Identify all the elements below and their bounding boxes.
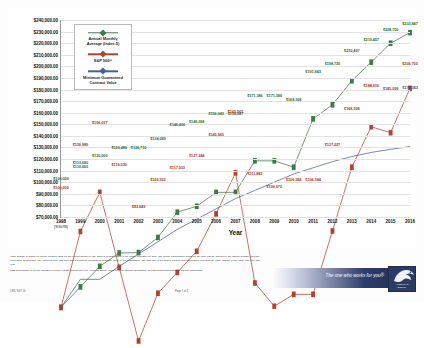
y-axis-tick-label: $110,000.00	[34, 168, 58, 173]
data-point-label: $146,406	[170, 121, 185, 126]
legend-swatch-icon	[88, 29, 118, 36]
series-marker	[292, 292, 296, 298]
x-axis-start-date-label: (9/30/98)	[54, 225, 68, 229]
gridline	[61, 171, 410, 172]
data-point-label: $149,268	[189, 118, 204, 123]
data-point-label: $185,099	[383, 86, 398, 91]
y-axis-tick-label: $150,000.00	[34, 122, 58, 127]
y-axis-tick-label: $220,000.00	[34, 41, 58, 46]
data-point-label: $134,089	[150, 136, 165, 141]
series-marker	[272, 303, 276, 309]
series-marker	[78, 284, 82, 290]
data-point-label: $126,710	[131, 144, 146, 149]
data-point-label: $137,227	[325, 141, 340, 146]
y-axis-tick-label: $190,000.00	[34, 75, 58, 80]
legend-entry: Annual MonthlyAverage (Index-5)	[77, 29, 129, 47]
data-point-label: $156,037	[92, 119, 107, 124]
data-point-label: $113,690	[73, 159, 88, 164]
x-axis-tick-label: 2006	[211, 219, 221, 224]
x-axis-tick-label: 2005	[192, 219, 202, 224]
disclaimer-paragraph-1: *This graphic is based on actual credite…	[10, 255, 260, 266]
data-point-label: $117,033	[170, 164, 185, 169]
gridline	[61, 205, 410, 206]
x-axis-tick-label: 1998	[56, 219, 66, 224]
x-axis-tick-label: 2014	[366, 219, 376, 224]
series-line	[61, 88, 410, 341]
data-point-label: $171,386	[247, 93, 262, 98]
y-axis-tick-label: $120,000.00	[34, 157, 58, 162]
series-marker	[156, 290, 160, 296]
data-point-label: $110,000	[73, 164, 88, 169]
gridline	[61, 136, 410, 137]
data-point-label: $100,000	[53, 184, 68, 189]
data-point-label: $106,932	[150, 176, 165, 181]
data-point-label: $126,489	[111, 145, 126, 150]
data-point-label: $178,343	[402, 84, 417, 89]
series-marker	[331, 228, 335, 234]
company-logo-name: AMERICANEQUITY	[389, 284, 415, 290]
legend-label: Annual MonthlyAverage (Index-5)	[77, 37, 129, 47]
y-axis-tick-label: $70,000.00	[36, 215, 58, 220]
company-logo: AMERICANEQUITY	[388, 266, 416, 292]
data-point-label: $106,384	[305, 177, 320, 182]
series-marker	[156, 235, 160, 241]
gridline	[61, 217, 410, 218]
data-point-label: $136,989	[73, 141, 88, 146]
y-axis-tick-label: $130,000.00	[34, 145, 58, 150]
y-axis-tick-label: $180,000.00	[34, 87, 58, 92]
x-axis-tick-label: 2003	[153, 219, 163, 224]
page-number: Page 1 of 1	[175, 290, 188, 293]
x-axis-title: Year	[229, 229, 243, 236]
series-marker	[331, 102, 335, 108]
legend-swatch-icon	[88, 51, 118, 58]
gridline	[61, 182, 410, 183]
x-axis-tick-label: 2009	[269, 219, 279, 224]
x-axis-tick-label: 2013	[347, 219, 357, 224]
data-point-label: $100,000	[53, 175, 68, 180]
series-marker	[350, 164, 354, 170]
series-marker	[137, 338, 141, 344]
data-point-label: $188,016	[364, 82, 379, 87]
series-marker	[311, 292, 315, 298]
series-marker	[78, 229, 82, 235]
x-axis-tick-label: 2008	[250, 219, 260, 224]
data-point-label: $127,344	[189, 153, 204, 158]
x-axis-tick-label: 2007	[230, 219, 240, 224]
series-marker	[175, 209, 179, 215]
legend-label: S&P 500®	[77, 59, 129, 64]
legend-entry: S&P 500®	[77, 51, 129, 64]
data-point-label: $168,308	[286, 96, 301, 101]
y-axis-tick-label: $200,000.00	[34, 64, 58, 69]
disclaimer-paragraph-2: Past performance is not an indication of…	[10, 269, 260, 273]
series-marker	[311, 116, 315, 122]
brand-banner: The one who works for you® AMERICANEQUIT…	[272, 266, 416, 292]
legend-swatch-icon	[88, 68, 118, 75]
y-axis-tick-label: $170,000.00	[34, 99, 58, 104]
data-point-label: $228,700	[383, 26, 398, 31]
data-point-label: $120,000	[92, 152, 107, 157]
y-axis-tick-label: $90,000.00	[36, 191, 58, 196]
x-axis-tick-label: 2015	[386, 219, 396, 224]
data-point-label: $106,384	[286, 177, 301, 182]
data-point-label: $156,043	[208, 110, 223, 115]
data-point-label: $119,530	[112, 162, 127, 167]
y-axis-tick-label: $240,000.00	[34, 18, 58, 23]
chart-container: Year $240,000.00$230,000.00$220,000.00$2…	[8, 8, 416, 248]
data-point-label: $111,882	[247, 170, 262, 175]
gridline	[61, 101, 410, 102]
series-marker	[292, 164, 296, 170]
x-axis-tick-label: 2001	[114, 219, 124, 224]
x-axis-tick-label: 2000	[95, 219, 105, 224]
y-axis-tick-label: $80,000.00	[36, 203, 58, 208]
series-marker	[253, 280, 257, 286]
y-axis-tick-label: $230,000.00	[34, 29, 58, 34]
x-axis-tick-label: 1999	[75, 219, 85, 224]
chart-legend: Annual MonthlyAverage (Index-5)S&P 500®M…	[74, 24, 132, 90]
data-point-label: $191,843	[305, 69, 320, 74]
y-axis-tick-label: $210,000.00	[34, 52, 58, 57]
data-point-label: $210,407	[344, 47, 359, 52]
data-point-label: $219,457	[364, 37, 379, 42]
gridline	[61, 20, 410, 21]
legend-entry: Minimum GuaranteedContract Value	[77, 68, 129, 86]
